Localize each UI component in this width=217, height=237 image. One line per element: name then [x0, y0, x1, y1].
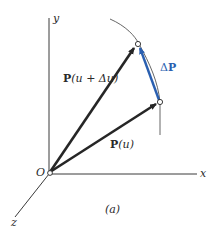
origin-label: O	[36, 166, 45, 179]
origin-point	[48, 171, 53, 176]
z-axis-label: z	[11, 216, 17, 229]
label-delta-p: ΔP	[160, 61, 176, 74]
p-bold: P	[168, 61, 176, 74]
vector-delta-p	[140, 48, 159, 100]
label-p-u: P(u)	[110, 138, 134, 151]
y-axis-label: y	[53, 12, 59, 25]
x-axis-label: x	[200, 167, 206, 180]
point-p-u	[157, 99, 162, 104]
figure-caption: (a)	[105, 203, 120, 216]
diagram-canvas	[0, 0, 217, 237]
p-arg: (u)	[118, 138, 134, 151]
vector-p-u-du	[50, 48, 134, 172]
p-arg: (u + Δu)	[71, 72, 118, 85]
point-p-u-du	[135, 41, 140, 46]
z-axis	[15, 174, 49, 217]
delta-symbol: Δ	[160, 61, 168, 74]
label-p-u-du: P(u + Δu)	[63, 72, 118, 85]
vector-p-u	[50, 104, 156, 172]
